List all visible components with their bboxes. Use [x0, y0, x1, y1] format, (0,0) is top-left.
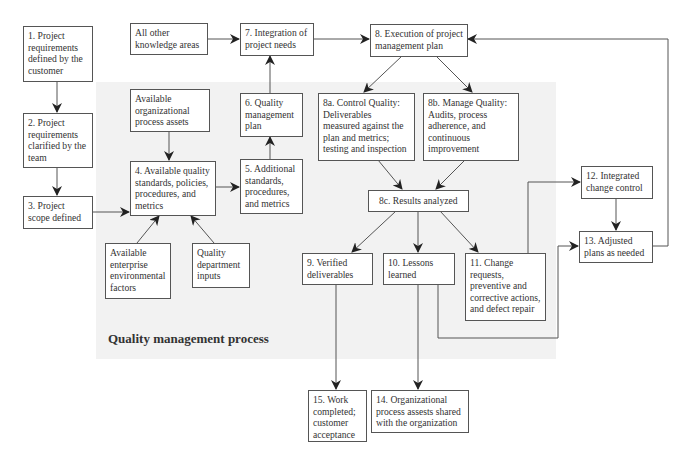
node-15: 15. Work completed; customer acceptance	[308, 390, 367, 442]
node-enterprise-factors: Available enterprise environmental facto…	[105, 243, 171, 299]
node-8a: 8a. Control Quality: Deliverables measur…	[318, 93, 415, 161]
node-1: 1. Project requirements defined by the c…	[23, 26, 93, 82]
node-8c: 8c. Results analyzed	[368, 190, 469, 212]
node-8b: 8b. Manage Quality: Audits, process adhe…	[423, 93, 519, 161]
node-8: 8. Execution of project management plan	[370, 24, 468, 57]
node-org-process-assets: Available organizational process assets	[130, 89, 210, 132]
node-14: 14. Organizational process assests share…	[371, 390, 469, 433]
node-11: 11. Change requests, preventive and corr…	[465, 253, 546, 321]
node-2: 2. Project requirements clarified by the…	[23, 113, 93, 168]
node-quality-dept-inputs: Quality department inputs	[192, 243, 250, 288]
node-13: 13. Adjusted plans as needed	[579, 231, 653, 263]
node-9: 9. Verified deliverables	[302, 253, 373, 285]
node-5: 5. Additional standards, procedures, and…	[240, 159, 303, 214]
node-12: 12. Integrated change control	[581, 166, 653, 199]
node-10: 10. Lessons learned	[383, 253, 455, 285]
node-7: 7. Integration of project needs	[240, 23, 314, 56]
node-other-knowledge-areas: All other knowledge areas	[130, 23, 208, 55]
node-4: 4. Available quality standards, policies…	[130, 161, 216, 216]
node-3: 3. Project scope defined	[23, 196, 93, 229]
node-6: 6. Quality management plan	[240, 93, 303, 137]
